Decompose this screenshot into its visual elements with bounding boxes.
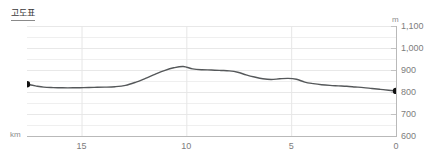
x-axis-tick-label: 5 <box>289 142 294 151</box>
x-axis-tick-label: 15 <box>76 142 86 151</box>
y-axis-tick-label: 900 <box>401 66 416 75</box>
start-point-marker <box>27 81 30 87</box>
elevation-profile-svg <box>27 26 396 136</box>
y-axis-tick-label: 1,100 <box>401 22 424 31</box>
y-axis-unit-label: m <box>392 16 399 24</box>
y-axis-line <box>396 26 397 137</box>
elevation-chart-widget: 고도표 m km 1,1001,000900800700600 151050 <box>0 0 436 160</box>
x-axis-line <box>27 136 397 137</box>
plot-area <box>27 26 396 136</box>
x-axis-tick-label: 10 <box>181 142 191 151</box>
y-axis-tick-label: 600 <box>401 132 416 141</box>
y-axis-tick-label: 1,000 <box>401 44 424 53</box>
x-axis-tick-label: 0 <box>393 142 398 151</box>
x-axis-unit-label: km <box>10 131 21 139</box>
page-title: 고도표 <box>11 8 35 21</box>
y-axis-tick-label: 800 <box>401 88 416 97</box>
y-axis-tick-label: 700 <box>401 110 416 119</box>
